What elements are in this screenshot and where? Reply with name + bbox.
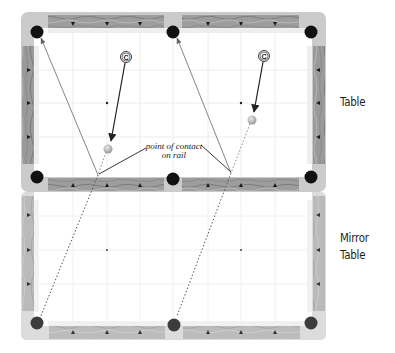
mirror-cushion-left [34,200,39,312]
svg-text:C: C [261,53,266,60]
mirror-spot-right [240,249,242,251]
spot-right [240,102,242,104]
table-mirror [21,192,326,340]
pocket-bottom-left [31,171,44,184]
mirror-pocket-right [305,317,318,330]
label-mirror-line2: Table [340,246,369,263]
cue-marker-icon: C [259,51,270,62]
label-mirror-table: Mirror Table [340,229,369,263]
label-mirror-line1: Mirror [340,229,369,246]
rail-middle-left [48,178,164,191]
object-ball [104,145,113,154]
table-upper [21,12,326,192]
mirror-spot-left [106,249,108,251]
billiard-diagram: C C point of contact on rail [0,0,395,353]
cushion-right [307,46,312,164]
pocket-top-right [305,26,318,39]
pocket-top-left [31,26,44,39]
mirror-pocket-middle [168,319,181,332]
pocket-top-middle [167,26,180,39]
mirror-rail-right [313,196,325,311]
annotation-on-rail: on rail [162,150,187,160]
svg-text:C: C [123,54,128,61]
cue-marker-icon: C [121,52,132,63]
pocket-bottom-right [305,171,318,184]
rail-left [22,46,34,164]
spot-left [106,102,108,104]
rail-top-left [48,15,164,28]
label-table: Table [340,93,365,110]
mirror-rail-left [22,196,34,311]
object-ball [248,116,257,125]
rail-top-right [182,15,299,28]
pocket-bottom-middle [167,173,180,186]
mirror-pocket-left [31,317,44,330]
mirror-cushion-right [307,200,312,312]
cushion-left [34,46,39,164]
rail-right [313,46,325,164]
